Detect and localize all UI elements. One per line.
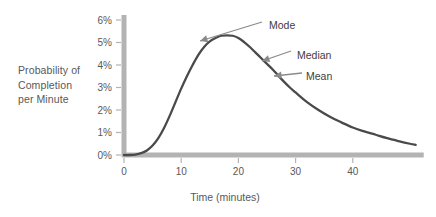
annotation-label: Mode bbox=[269, 19, 295, 31]
chart-figure: Probability of Completion per Minute 0%1… bbox=[0, 0, 436, 217]
x-tick-label: 10 bbox=[176, 166, 188, 177]
x-tick-label: 40 bbox=[347, 166, 359, 177]
x-tick-label: 30 bbox=[290, 166, 302, 177]
chart-annotations: ModeMedianMean bbox=[200, 19, 332, 82]
y-tick-label: 1% bbox=[98, 127, 113, 138]
y-axis-title: Probability of Completion per Minute bbox=[18, 63, 104, 107]
density-curve bbox=[124, 35, 416, 155]
annotation-label: Mean bbox=[306, 70, 332, 82]
x-tick-label: 20 bbox=[233, 166, 245, 177]
x-tick-label: 0 bbox=[121, 166, 127, 177]
y-axis-title-line-2: Completion bbox=[18, 78, 104, 93]
y-tick-label: 0% bbox=[98, 150, 113, 161]
annotation-label: Median bbox=[297, 49, 332, 61]
annotation-arrowhead bbox=[262, 55, 270, 62]
annotation-median: Median bbox=[262, 49, 332, 62]
y-tick-marks bbox=[116, 20, 121, 155]
annotation-leader-line bbox=[200, 22, 262, 41]
y-tick-label: 6% bbox=[98, 15, 113, 26]
y-axis-title-line-3: per Minute bbox=[18, 92, 104, 107]
y-axis-title-line-1: Probability of bbox=[18, 63, 104, 78]
x-axis-title: Time (minutes) bbox=[190, 191, 260, 203]
chart-plot-area: 0%1%2%3%4%5%6% 010203040 ModeMedianMean … bbox=[0, 0, 436, 217]
x-tick-labels: 010203040 bbox=[121, 166, 359, 177]
x-tick-marks bbox=[124, 158, 353, 163]
y-tick-label: 5% bbox=[98, 37, 113, 48]
